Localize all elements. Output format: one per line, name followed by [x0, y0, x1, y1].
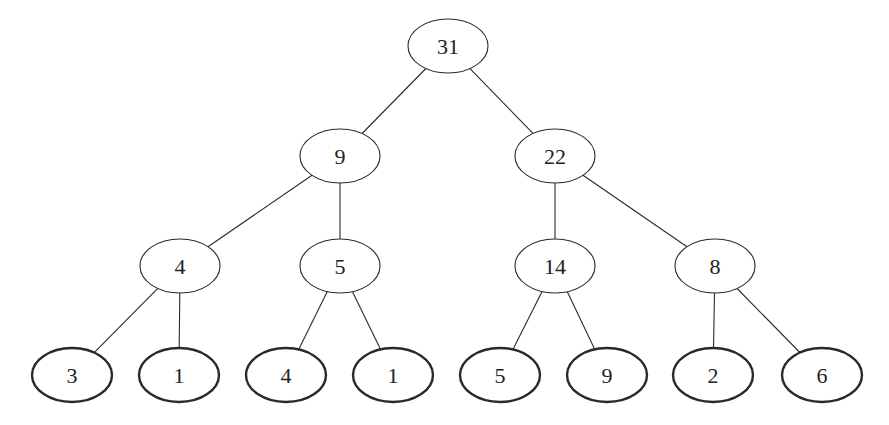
tree-edge: [299, 292, 328, 350]
leaf-node: 9: [567, 348, 647, 402]
node-label: 1: [174, 363, 185, 388]
node-label: 9: [602, 363, 613, 388]
node-label: 4: [175, 254, 186, 279]
internal-node: 5: [300, 239, 380, 293]
node-label: 8: [710, 254, 721, 279]
tree-edge: [513, 292, 542, 350]
leaf-node: 3: [32, 348, 112, 402]
node-label: 4: [281, 363, 292, 388]
node-label: 14: [544, 254, 566, 279]
leaf-node: 4: [246, 348, 326, 402]
node-label: 22: [544, 144, 566, 169]
tree-edge: [94, 288, 158, 352]
tree-edge: [583, 175, 687, 246]
internal-node: 8: [675, 239, 755, 293]
leaf-node: 5: [460, 348, 540, 402]
tree-edge: [208, 175, 312, 246]
tree-diagram: 319224514831415926: [0, 0, 889, 425]
tree-edge: [179, 293, 180, 348]
tree-edge: [737, 289, 800, 353]
internal-node: 9: [300, 129, 380, 183]
leaf-node: 6: [782, 348, 862, 402]
leaf-node: 1: [353, 348, 433, 402]
node-label: 31: [437, 34, 459, 59]
tree-edge: [362, 69, 426, 134]
node-label: 1: [388, 363, 399, 388]
tree-nodes: 319224514831415926: [32, 19, 862, 402]
node-label: 9: [335, 144, 346, 169]
tree-edge: [470, 69, 533, 134]
leaf-node: 1: [139, 348, 219, 402]
internal-node: 31: [408, 19, 488, 73]
tree-edge: [714, 293, 715, 348]
internal-node: 22: [515, 129, 595, 183]
node-label: 5: [495, 363, 506, 388]
internal-node: 14: [515, 239, 595, 293]
node-label: 2: [708, 363, 719, 388]
leaf-node: 2: [673, 348, 753, 402]
node-label: 6: [817, 363, 828, 388]
node-label: 3: [67, 363, 78, 388]
tree-edge: [567, 292, 594, 350]
tree-edge: [353, 292, 381, 350]
internal-node: 4: [140, 239, 220, 293]
node-label: 5: [335, 254, 346, 279]
tree-edges: [94, 69, 800, 353]
